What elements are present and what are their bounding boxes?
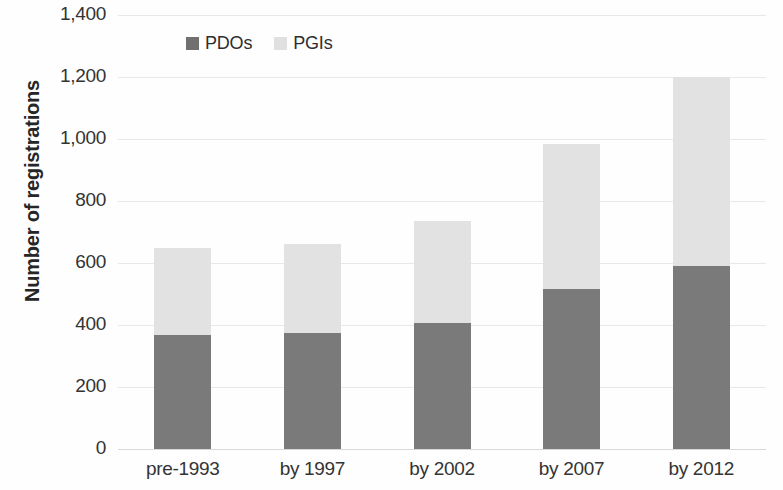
bar-segment-pgis[interactable]	[673, 77, 730, 266]
gridline	[118, 15, 766, 16]
y-axis-tick-label: 400	[44, 313, 106, 335]
y-axis-tick-label: 200	[44, 375, 106, 397]
x-axis-tick-label: by 2012	[641, 458, 761, 480]
y-axis-tick-label: 0	[44, 437, 106, 459]
bar-segment-pdos[interactable]	[414, 323, 471, 449]
y-axis-tick-label: 800	[44, 189, 106, 211]
gridline	[118, 77, 766, 78]
x-axis-tick-label: by 2007	[512, 458, 632, 480]
bar-segment-pgis[interactable]	[414, 221, 471, 323]
legend-label: PDOs	[205, 33, 252, 54]
bar-segment-pdos[interactable]	[543, 289, 600, 449]
bar-segment-pdos[interactable]	[284, 333, 341, 449]
y-axis-tick-label: 600	[44, 251, 106, 273]
gridline	[118, 139, 766, 140]
y-axis-tick-label: 1,200	[44, 65, 106, 87]
y-axis-tick-label: 1,400	[44, 3, 106, 25]
bar-column[interactable]	[284, 244, 341, 449]
stacked-bar-chart: Number of registrations 1,4001,2001,0008…	[0, 0, 783, 490]
legend-item-pdos[interactable]: PDOs	[186, 33, 252, 54]
bar-segment-pgis[interactable]	[154, 248, 211, 335]
legend-item-pgis[interactable]: PGIs	[274, 33, 332, 54]
axis-baseline	[118, 449, 766, 450]
legend-label: PGIs	[293, 33, 332, 54]
y-axis-tick-label: 1,000	[44, 127, 106, 149]
bar-segment-pgis[interactable]	[543, 144, 600, 290]
legend-swatch-icon	[186, 37, 199, 50]
x-axis-tick-label: by 2002	[382, 458, 502, 480]
bar-column[interactable]	[673, 77, 730, 449]
bar-column[interactable]	[543, 144, 600, 449]
bar-segment-pdos[interactable]	[673, 266, 730, 449]
x-axis-tick-labels: pre-1993by 1997by 2002by 2007by 2012	[118, 458, 766, 488]
bar-column[interactable]	[414, 221, 471, 449]
x-axis-tick-label: pre-1993	[123, 458, 243, 480]
chart-legend: PDOsPGIs	[186, 31, 332, 55]
y-axis-tick-labels: 1,4001,2001,0008006004002000	[40, 0, 106, 490]
plot-area	[118, 15, 766, 449]
gridline	[118, 201, 766, 202]
bar-column[interactable]	[154, 248, 211, 450]
legend-swatch-icon	[274, 37, 287, 50]
x-axis-tick-label: by 1997	[252, 458, 372, 480]
bar-segment-pdos[interactable]	[154, 335, 211, 449]
bar-segment-pgis[interactable]	[284, 244, 341, 332]
